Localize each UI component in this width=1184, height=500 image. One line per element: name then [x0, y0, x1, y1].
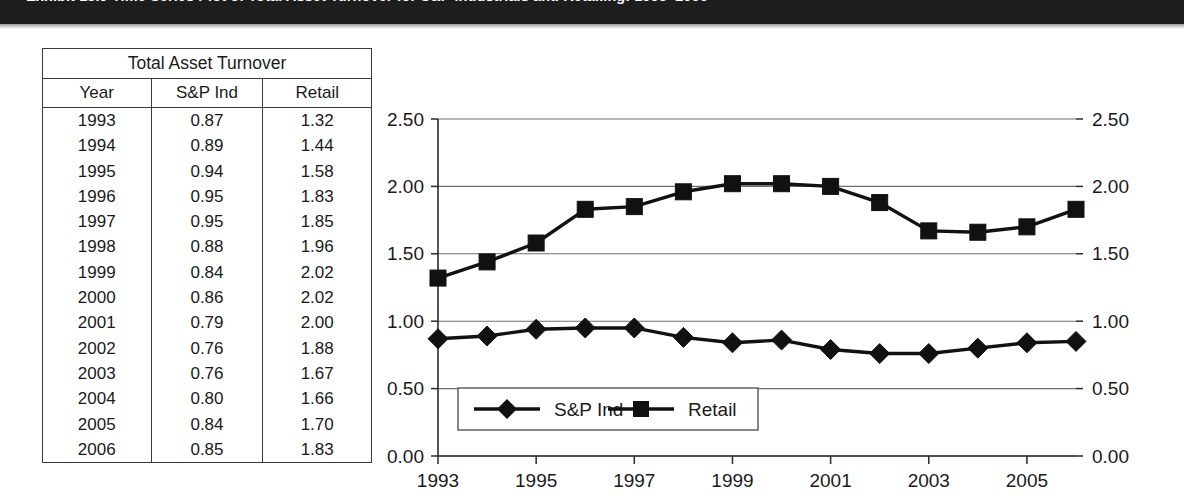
table-cell-retail: 1.67 [263, 361, 372, 386]
marker-sp-ind-1993 [428, 329, 448, 349]
table-caption-row: Total Asset Turnover [43, 49, 372, 79]
table-cell-s-p-ind: 0.88 [151, 234, 263, 259]
marker-retail-2000 [774, 176, 790, 192]
marker-sp-ind-1995 [526, 319, 546, 339]
table-cell-retail: 2.00 [263, 310, 372, 335]
table-cell-s-p-ind: 0.79 [151, 310, 263, 335]
table-header-row: YearS&P IndRetail [43, 79, 372, 108]
marker-retail-2004 [970, 224, 986, 240]
table-cell-retail: 2.02 [263, 260, 372, 285]
marker-sp-ind-2004 [968, 338, 988, 358]
table-cell-retail: 1.66 [263, 386, 372, 411]
y-tick-label-left-0: 0.00 [387, 446, 424, 467]
marker-retail-1997 [626, 199, 642, 215]
table-header-1: S&P Ind [151, 79, 263, 108]
table-cell-s-p-ind: 0.87 [151, 108, 263, 134]
marker-retail-2003 [921, 223, 937, 239]
exhibit-title-band: Exhibit 13.9 Time Series Plot of Total A… [0, 0, 1184, 24]
table-cell-year: 2005 [43, 412, 152, 437]
marker-retail-1995 [528, 235, 544, 251]
table-cell-retail: 1.32 [263, 108, 372, 134]
exhibit-title: Exhibit 13.9 Time Series Plot of Total A… [26, 0, 708, 4]
table-cell-s-p-ind: 0.95 [151, 209, 263, 234]
table-cell-year: 1996 [43, 184, 152, 209]
y-tick-label-left-3: 1.50 [387, 243, 424, 264]
data-table: Total Asset TurnoverYearS&P IndRetail199… [42, 48, 372, 463]
table-cell-year: 2004 [43, 386, 152, 411]
y-tick-label-right-4: 2.00 [1092, 176, 1129, 197]
y-tick-label-right-5: 2.50 [1092, 109, 1129, 130]
table-cell-year: 1994 [43, 133, 152, 158]
marker-sp-ind-2000 [772, 330, 792, 350]
table-cell-s-p-ind: 0.80 [151, 386, 263, 411]
table-cell-s-p-ind: 0.84 [151, 412, 263, 437]
table-row: 19970.951.85 [43, 209, 372, 234]
marker-sp-ind-1998 [673, 327, 693, 347]
y-tick-label-right-1: 0.50 [1092, 378, 1129, 399]
table-cell-year: 1999 [43, 260, 152, 285]
table-cell-retail: 1.70 [263, 412, 372, 437]
table-row: 19960.951.83 [43, 184, 372, 209]
marker-sp-ind-2001 [821, 340, 841, 360]
marker-retail-2002 [872, 195, 888, 211]
table-cell-s-p-ind: 0.89 [151, 133, 263, 158]
table-header-0: Year [43, 79, 152, 108]
table-cell-s-p-ind: 0.94 [151, 159, 263, 184]
marker-retail-2006 [1068, 201, 1084, 217]
table-cell-retail: 1.88 [263, 336, 372, 361]
y-tick-label-left-5: 2.50 [387, 109, 424, 130]
table-cell-retail: 1.96 [263, 234, 372, 259]
total-asset-turnover-table: Total Asset TurnoverYearS&P IndRetail199… [42, 48, 372, 463]
table-row: 20060.851.83 [43, 437, 372, 463]
table-cell-year: 1995 [43, 159, 152, 184]
y-tick-label-left-2: 1.00 [387, 311, 424, 332]
marker-sp-ind-2003 [919, 344, 939, 364]
marker-retail-2005 [1019, 219, 1035, 235]
exhibit-page: Exhibit 13.9 Time Series Plot of Total A… [0, 0, 1184, 500]
table-header-2: Retail [263, 79, 372, 108]
x-tick-label-1: 1995 [515, 470, 557, 491]
marker-sp-ind-1994 [477, 326, 497, 346]
table-cell-s-p-ind: 0.76 [151, 361, 263, 386]
x-tick-label-5: 2003 [908, 470, 950, 491]
table-row: 20020.761.88 [43, 336, 372, 361]
table-row: 19950.941.58 [43, 159, 372, 184]
table-row: 19940.891.44 [43, 133, 372, 158]
table-cell-retail: 1.58 [263, 159, 372, 184]
marker-retail-1994 [479, 254, 495, 270]
y-tick-label-right-2: 1.00 [1092, 311, 1129, 332]
table-row: 20030.761.67 [43, 361, 372, 386]
table-cell-retail: 1.83 [263, 437, 372, 463]
y-tick-label-left-1: 0.50 [387, 378, 424, 399]
table-cell-retail: 1.44 [263, 133, 372, 158]
table-cell-year: 2000 [43, 285, 152, 310]
table-cell-s-p-ind: 0.85 [151, 437, 263, 463]
y-tick-label-right-0: 0.00 [1092, 446, 1129, 467]
table-cell-s-p-ind: 0.95 [151, 184, 263, 209]
table-row: 19980.881.96 [43, 234, 372, 259]
marker-retail-2001 [823, 178, 839, 194]
marker-sp-ind-2002 [870, 344, 890, 364]
marker-sp-ind-2006 [1066, 331, 1086, 351]
table-cell-year: 1998 [43, 234, 152, 259]
table-row: 20000.862.02 [43, 285, 372, 310]
table-cell-s-p-ind: 0.84 [151, 260, 263, 285]
chart-svg: 0.000.000.500.501.001.001.501.502.002.00… [386, 100, 1176, 495]
table-cell-s-p-ind: 0.76 [151, 336, 263, 361]
x-tick-label-0: 1993 [417, 470, 459, 491]
table-cell-retail: 1.85 [263, 209, 372, 234]
table-cell-year: 2002 [43, 336, 152, 361]
legend-marker-retail [633, 401, 649, 417]
table-cell-retail: 2.02 [263, 285, 372, 310]
marker-retail-1996 [577, 201, 593, 217]
marker-sp-ind-1999 [722, 333, 742, 353]
table-row: 20040.801.66 [43, 386, 372, 411]
marker-retail-1993 [430, 270, 446, 286]
marker-retail-1998 [675, 184, 691, 200]
table-cell-year: 2006 [43, 437, 152, 463]
marker-retail-1999 [724, 176, 740, 192]
marker-sp-ind-2005 [1017, 333, 1037, 353]
table-cell-retail: 1.83 [263, 184, 372, 209]
y-tick-label-right-3: 1.50 [1092, 243, 1129, 264]
title-band-shadow [0, 24, 1184, 29]
